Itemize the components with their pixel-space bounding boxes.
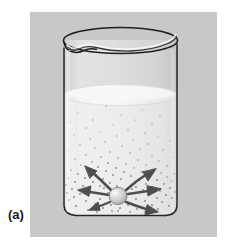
- panel-label-a: (a): [8, 207, 24, 223]
- beaker-diagram: [0, 0, 230, 243]
- figure-root: (a): [0, 0, 230, 243]
- solid-particle: [109, 187, 127, 204]
- liquid-surface: [64, 85, 177, 106]
